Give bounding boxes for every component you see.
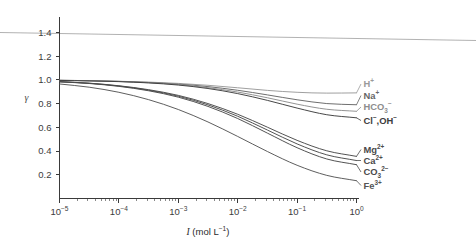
y-tick-label: 0.2 bbox=[38, 169, 51, 180]
y-tick-label: 1.4 bbox=[38, 27, 51, 38]
legend-label-cloh: Cl−,OH− bbox=[364, 114, 398, 126]
activity-coefficient-chart: 0.20.40.60.81.01.21.4 10−510−410−310−210… bbox=[0, 0, 476, 251]
y-tick-label: 1.0 bbox=[38, 74, 51, 85]
y-tick-label: 0.4 bbox=[38, 145, 51, 156]
legend-label-hco: HCO3− bbox=[364, 100, 392, 113]
y-tick-label: 1.2 bbox=[38, 51, 51, 62]
chart-canvas: 0.20.40.60.81.01.21.4 10−510−410−310−210… bbox=[0, 0, 476, 251]
y-tick-label: 0.6 bbox=[38, 122, 51, 133]
y-tick-label: 0.8 bbox=[38, 98, 51, 109]
